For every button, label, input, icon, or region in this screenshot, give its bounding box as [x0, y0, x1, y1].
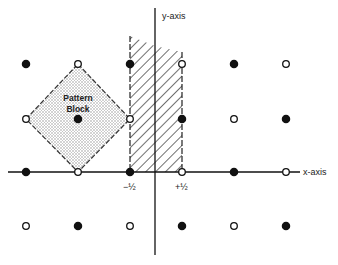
open-lattice-point: [283, 169, 290, 176]
filled-lattice-point: [22, 168, 29, 175]
open-lattice-point: [23, 223, 30, 230]
filled-lattice-point: [178, 222, 185, 229]
filled-lattice-point: [178, 115, 185, 122]
filled-lattice-point: [230, 60, 237, 67]
x-axis-label: x-axis: [303, 167, 327, 177]
open-lattice-point: [23, 116, 30, 123]
pattern-block-label-line1: Pattern: [63, 93, 92, 103]
open-lattice-point: [127, 116, 134, 123]
tick-label-plus-half: +½: [175, 182, 188, 192]
filled-lattice-point: [74, 222, 81, 229]
open-lattice-point: [231, 223, 238, 230]
lattice-diagram: y-axis x-axis −½ +½ Pattern Block: [0, 0, 338, 265]
open-lattice-point: [283, 61, 290, 68]
open-lattice-point: [127, 223, 134, 230]
y-axis-label: y-axis: [162, 11, 186, 21]
filled-lattice-point: [230, 168, 237, 175]
open-lattice-point: [179, 169, 186, 176]
open-lattice-point: [231, 116, 238, 123]
filled-lattice-point: [282, 222, 289, 229]
filled-lattice-point: [22, 60, 29, 67]
filled-lattice-point: [74, 115, 81, 122]
pattern-block-label-line2: Block: [66, 104, 89, 114]
open-lattice-point: [75, 61, 82, 68]
filled-lattice-point: [126, 168, 133, 175]
filled-lattice-point: [126, 60, 133, 67]
filled-lattice-point: [282, 115, 289, 122]
open-lattice-point: [75, 169, 82, 176]
tick-label-minus-half: −½: [123, 182, 136, 192]
open-lattice-point: [179, 61, 186, 68]
hatched-strip-region: [130, 36, 182, 172]
